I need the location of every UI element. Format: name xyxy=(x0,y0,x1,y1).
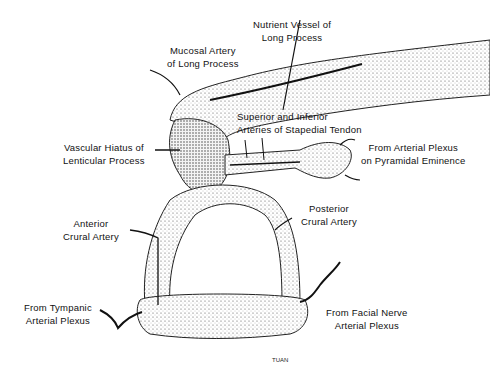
label-pyramidal-eminence: From Arterial Plexus on Pyramidal Eminen… xyxy=(361,141,466,167)
artist-signature: TUAN xyxy=(272,357,288,363)
label-mucosal-artery: Mucosal Artery of Long Process xyxy=(167,44,239,70)
stapes-diagram: TUAN Nutrient Vessel of Long Process Muc… xyxy=(0,0,490,367)
label-facial-nerve-plexus: From Facial Nerve Arterial Plexus xyxy=(326,306,408,332)
label-nutrient-vessel: Nutrient Vessel of Long Process xyxy=(253,18,331,44)
label-posterior-crural-artery: Posterior Crural Artery xyxy=(301,202,357,228)
label-tympanic-plexus: From Tympanic Arterial Plexus xyxy=(24,301,92,327)
label-vascular-hiatus: Vascular Hiatus of Lenticular Process xyxy=(63,141,145,167)
label-stapedial-tendon-arteries: Superior and Inferior Arteries of Staped… xyxy=(237,110,362,136)
label-anterior-crural-artery: Anterior Crural Artery xyxy=(63,217,119,243)
